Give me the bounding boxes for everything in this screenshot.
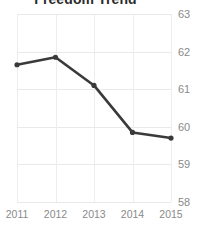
line-chart: Freedom Trend 636261605958 2011201220132…	[0, 0, 207, 231]
y-tick-label: 63	[178, 8, 190, 20]
y-tick-label: 61	[178, 83, 190, 95]
y-tick-label: 58	[178, 196, 190, 208]
data-point-2013	[91, 83, 96, 88]
y-tick-label: 59	[178, 158, 190, 170]
data-series-freedom	[7, 4, 181, 212]
x-tick-label: 2012	[44, 208, 67, 220]
y-tick-label: 62	[178, 46, 190, 58]
x-tick-label: 2014	[121, 208, 144, 220]
series-line	[17, 57, 171, 138]
series-markers	[14, 55, 173, 141]
x-tick-label: 2011	[6, 208, 29, 220]
data-point-2012	[53, 55, 58, 60]
data-point-2015	[168, 135, 173, 140]
data-point-2014	[130, 130, 135, 135]
data-point-2011	[14, 62, 19, 67]
y-tick-label: 60	[178, 121, 190, 133]
x-tick-label: 2015	[159, 208, 182, 220]
plot-area	[17, 14, 171, 202]
x-tick-label: 2013	[82, 208, 105, 220]
